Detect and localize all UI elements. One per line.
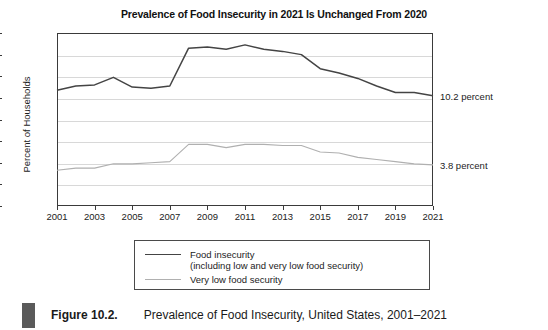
- y-tick-mark: [0, 98, 2, 99]
- x-tick-mark: [95, 206, 96, 210]
- caption-description: Prevalence of Food Insecurity, United St…: [144, 308, 447, 322]
- x-tick-mark: [57, 206, 58, 210]
- legend-label-food-insecurity: Food insecurity: [190, 249, 254, 260]
- annotation-very-low-value: 3.8 percent: [440, 159, 488, 170]
- x-tick-label: 2005: [112, 211, 152, 222]
- x-tick-mark: [433, 206, 434, 210]
- series-layer: [57, 33, 433, 206]
- x-tick-label: 2003: [75, 211, 115, 222]
- y-tick-mark: [0, 33, 2, 34]
- chart-title: Prevalence of Food Insecurity in 2021 Is…: [0, 8, 548, 20]
- legend-swatch-very-low: [145, 279, 181, 280]
- x-tick-mark: [395, 206, 396, 210]
- y-tick-mark: [0, 55, 2, 56]
- legend-item-food-insecurity[interactable]: Food insecurity: [145, 249, 254, 260]
- caption-accent-bar: [22, 303, 35, 328]
- legend-sublabel-food-insecurity: (including low and very low food securit…: [190, 260, 363, 271]
- legend-item-very-low[interactable]: Very low food security: [145, 274, 282, 285]
- y-tick-mark: [0, 76, 2, 77]
- x-tick-label: 2013: [263, 211, 303, 222]
- annotation-food-insecurity-value: 10.2 percent: [440, 90, 493, 101]
- caption-figure-number: Figure 10.2.: [51, 308, 118, 322]
- y-tick-mark: [0, 141, 2, 142]
- x-tick-mark: [283, 206, 284, 210]
- legend-swatch-food-insecurity: [145, 254, 181, 255]
- x-tick-label: 2021: [413, 211, 453, 222]
- x-tick-mark: [207, 206, 208, 210]
- x-tick-label: 2007: [150, 211, 190, 222]
- y-tick-mark: [0, 206, 2, 207]
- x-tick-label: 2015: [300, 211, 340, 222]
- line-very-low-food-security: [57, 144, 433, 170]
- x-tick-label: 2011: [225, 211, 265, 222]
- x-tick-label: 2019: [375, 211, 415, 222]
- x-tick-label: 2009: [187, 211, 227, 222]
- x-tick-label: 2017: [338, 211, 378, 222]
- x-tick-mark: [358, 206, 359, 210]
- x-tick-mark: [320, 206, 321, 210]
- y-axis-title: Percent of Households: [21, 55, 32, 195]
- x-tick-mark: [170, 206, 171, 210]
- figure-caption: Figure 10.2. Prevalence of Food Insecuri…: [0, 300, 548, 330]
- y-axis: Percent of Households 0246810121416: [0, 0, 57, 240]
- legend-label-very-low: Very low food security: [190, 274, 282, 285]
- y-tick-mark: [0, 120, 2, 121]
- y-tick-mark: [0, 184, 2, 185]
- legend: Food insecurity (including low and very …: [134, 240, 430, 290]
- line-food-insecurity: [57, 45, 433, 96]
- x-tick-mark: [245, 206, 246, 210]
- x-tick-label: 2001: [37, 211, 77, 222]
- y-tick-mark: [0, 163, 2, 164]
- x-tick-mark: [132, 206, 133, 210]
